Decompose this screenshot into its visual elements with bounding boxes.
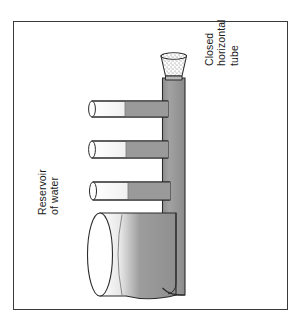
- closed-horizontal-tube-label: Closed horizontal tube: [203, 0, 240, 66]
- branch-tube-2-open-end: [89, 141, 96, 158]
- branch-tube-2-water: [126, 141, 168, 158]
- funnel-neck: [166, 76, 183, 80]
- reservoir-of-water-label: Reservoir of water: [36, 123, 61, 215]
- closed-tube-label-line-1: Closed: [203, 0, 215, 66]
- branch-tube-1-open-end: [89, 101, 96, 117]
- reservoir-open-end-ellipse: [88, 213, 113, 296]
- closed-tube-label-line-2: horizontal: [215, 0, 227, 66]
- branch-tube-2: [89, 141, 168, 158]
- branch-tube-1-water: [125, 101, 168, 117]
- branch-tube-3-open-end: [90, 182, 97, 200]
- figure-root: Closed horizontal tube Reservoir of wate…: [0, 0, 307, 330]
- closed-tube-label-line-3: tube: [228, 0, 240, 66]
- reservoir-label-line-2: of water: [48, 123, 60, 215]
- branch-tube-3: [90, 182, 171, 200]
- branch-tube-3-water: [128, 182, 170, 200]
- funnel-rim-stipple: [163, 54, 185, 59]
- stippled-funnel: [161, 53, 187, 80]
- reservoir-label-line-1: Reservoir: [36, 123, 48, 215]
- branch-tube-1: [89, 101, 168, 117]
